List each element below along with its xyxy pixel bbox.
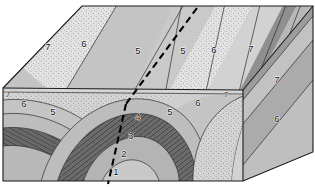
geologic-block-diagram: Geologic block diagram of a faulted plun…: [0, 0, 315, 187]
front-label-6-right: 6: [195, 97, 200, 108]
front-label-1: 1: [113, 166, 118, 177]
top-label-7-left: 7: [45, 41, 50, 52]
front-section-face: [0, 85, 250, 186]
block-diagram-figure: Geologic block diagram of a faulted plun…: [0, 0, 315, 187]
top-label-5-left: 5: [135, 45, 140, 56]
front-label-4: 4: [135, 111, 140, 122]
front-label-7-right: 7: [224, 90, 229, 99]
top-label-7-right: 7: [248, 43, 253, 54]
front-label-2: 2: [121, 148, 126, 159]
right-label-7: 7: [274, 74, 279, 85]
top-label-6-right: 6: [211, 44, 216, 55]
front-label-5-left: 5: [50, 106, 55, 117]
top-label-6-left: 6: [81, 38, 86, 49]
top-label-5-right: 5: [180, 45, 185, 56]
front-label-3: 3: [128, 130, 133, 141]
front-label-5-right: 5: [167, 106, 172, 117]
right-label-6: 6: [274, 113, 279, 124]
front-label-6-left: 6: [21, 98, 26, 109]
front-label-7-left: 7: [6, 90, 11, 99]
